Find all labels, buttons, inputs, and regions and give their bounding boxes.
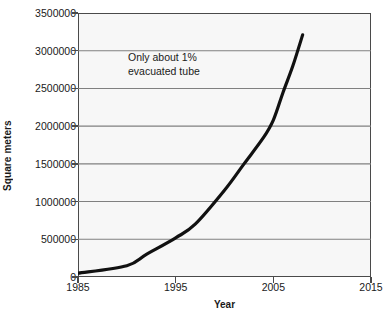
y-tick-label: 1000000 xyxy=(6,197,76,207)
chart-figure: Square meters Year 050000010000001500000… xyxy=(0,0,388,325)
y-tick-label: 500000 xyxy=(6,234,76,244)
x-tick-mark xyxy=(370,277,372,283)
y-tick-label: 1500000 xyxy=(6,159,76,169)
x-tick-mark xyxy=(175,277,177,283)
x-tick-mark xyxy=(77,277,79,283)
y-tick-label: 3500000 xyxy=(6,8,76,18)
y-tick-label: 2500000 xyxy=(6,83,76,93)
y-tick-label: 2000000 xyxy=(6,121,76,131)
figure-title-cropped xyxy=(0,0,388,3)
x-axis-title: Year xyxy=(78,299,371,310)
x-tick-label: 2015 xyxy=(343,281,388,293)
plot-canvas xyxy=(78,13,371,277)
y-tick-label: 3000000 xyxy=(6,46,76,56)
chart-annotation: Only about 1% evacuated tube xyxy=(128,50,200,78)
annotation-line-1: Only about 1% xyxy=(128,50,200,64)
x-tick-mark xyxy=(273,277,275,283)
annotation-line-2: evacuated tube xyxy=(128,64,200,78)
